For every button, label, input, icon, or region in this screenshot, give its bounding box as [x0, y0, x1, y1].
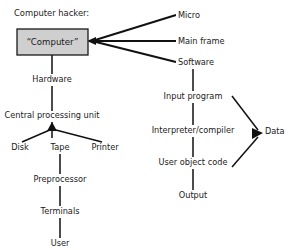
- node-object-code-label: User object code: [159, 157, 228, 167]
- node-output[interactable]: Output: [175, 190, 212, 201]
- computer-box-label: “Computer”: [27, 37, 79, 47]
- node-micro[interactable]: Micro: [176, 10, 204, 21]
- node-output-label: Output: [179, 190, 208, 200]
- node-tape-label: Tape: [50, 142, 70, 152]
- edge-computer-software: [92, 41, 176, 62]
- node-disk-label: Disk: [11, 142, 29, 152]
- arrowhead-into-cpu: [47, 122, 57, 131]
- node-software-label: Software: [178, 57, 214, 67]
- edge-objectcode-data: [232, 137, 258, 167]
- node-terminals[interactable]: Terminals: [36, 206, 84, 217]
- node-terminals-label: Terminals: [40, 206, 80, 216]
- node-object-code[interactable]: User object code: [155, 157, 231, 168]
- edge-inputprogram-data: [232, 96, 258, 130]
- node-micro-label: Micro: [178, 10, 200, 20]
- node-user[interactable]: User: [47, 238, 73, 249]
- node-disk[interactable]: Disk: [7, 142, 33, 153]
- node-user-label: User: [51, 238, 70, 248]
- edge-computer-micro: [92, 15, 176, 41]
- edge-cpu-printer: [52, 129, 102, 142]
- node-hardware[interactable]: Hardware: [30, 74, 74, 85]
- node-printer-label: Printer: [91, 142, 119, 152]
- node-input-program-label: Input program: [164, 91, 223, 101]
- node-hardware-label: Hardware: [32, 74, 72, 84]
- node-preprocessor[interactable]: Preprocessor: [29, 174, 91, 185]
- node-tape[interactable]: Tape: [46, 142, 74, 153]
- node-software[interactable]: Software: [176, 57, 216, 68]
- node-input-program[interactable]: Input program: [160, 91, 226, 102]
- diagram-svg: “Computer” Computer hacker: Micro Main f…: [0, 0, 292, 250]
- node-data-label: Data: [265, 126, 285, 136]
- node-cpu[interactable]: Central processing unit: [4, 110, 100, 121]
- node-preprocessor-label: Preprocessor: [34, 174, 87, 184]
- computer-node[interactable]: “Computer”: [17, 29, 88, 55]
- node-interpreter-label: Interpreter/compiler: [152, 125, 235, 135]
- node-cpu-label: Central processing unit: [4, 110, 100, 120]
- node-interpreter[interactable]: Interpreter/compiler: [148, 125, 238, 136]
- diagram-title: Computer hacker:: [14, 8, 89, 18]
- node-data[interactable]: Data: [263, 126, 291, 137]
- node-mainframe[interactable]: Main frame: [176, 36, 224, 47]
- diagram-canvas: “Computer” Computer hacker: Micro Main f…: [0, 0, 292, 250]
- node-mainframe-label: Main frame: [178, 36, 224, 46]
- node-printer[interactable]: Printer: [87, 142, 123, 153]
